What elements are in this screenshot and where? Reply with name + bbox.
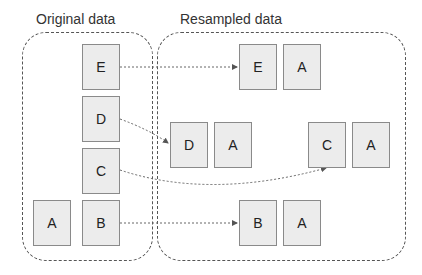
resampled-box-d-a: A [214, 122, 252, 168]
resampled-box-b: B [239, 200, 277, 246]
resampled-box-d: D [170, 122, 208, 168]
original-box-d: D [82, 96, 120, 142]
resampled-box-b-a: A [283, 200, 321, 246]
resampled-box-e: E [239, 44, 277, 90]
original-box-c: C [82, 148, 120, 194]
arrow-d [120, 119, 168, 143]
arrow-c [120, 168, 326, 185]
original-box-a: A [33, 200, 71, 246]
original-box-e: E [82, 44, 120, 90]
resampled-box-c-a: A [352, 122, 390, 168]
original-box-b: B [82, 200, 120, 246]
resampled-box-c: C [308, 122, 346, 168]
resampled-box-e-a: A [283, 44, 321, 90]
